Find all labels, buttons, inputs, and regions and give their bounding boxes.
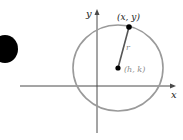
x-axis-arrow-icon (170, 84, 176, 89)
x-axis (20, 84, 176, 89)
circle-point (126, 24, 132, 30)
center-point (115, 65, 120, 70)
center-label: (h, k) (124, 65, 145, 74)
radius-label: r (126, 43, 131, 52)
circle-diagram: y x (x, y) r (h, k) (0, 0, 183, 140)
x-axis-label: x (171, 89, 177, 100)
y-axis (95, 9, 100, 133)
y-axis-arrow-icon (95, 9, 100, 15)
y-axis-label: y (85, 8, 92, 19)
point-label: (x, y) (117, 12, 140, 22)
